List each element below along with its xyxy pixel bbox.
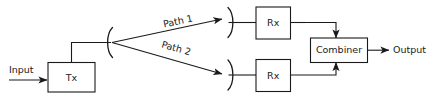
input-label: Input xyxy=(9,64,34,75)
rx-top-label: Rx xyxy=(267,17,280,28)
rx-bottom-label: Rx xyxy=(267,70,280,81)
path-1-label: Path 1 xyxy=(162,13,194,30)
combiner-block[interactable]: Combiner xyxy=(311,38,368,63)
output-label: Output xyxy=(393,44,426,55)
rx-top-block[interactable]: Rx xyxy=(256,7,291,39)
tx-block[interactable]: Tx xyxy=(48,63,95,93)
diagram-canvas: Input Tx Path 1 Path 2 xyxy=(0,0,427,101)
tx-antenna-feed xyxy=(72,43,112,63)
tx-label: Tx xyxy=(65,72,78,83)
rx-top-to-combiner-wire xyxy=(291,23,337,39)
combiner-label: Combiner xyxy=(316,44,362,55)
rx-bottom-block[interactable]: Rx xyxy=(256,60,291,92)
path-2-label: Path 2 xyxy=(160,39,192,58)
diversity-reception-diagram: Input Tx Path 1 Path 2 xyxy=(0,0,427,101)
rx-bottom-to-combiner-wire xyxy=(291,63,337,76)
